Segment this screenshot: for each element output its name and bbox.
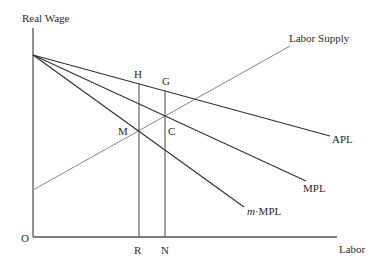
labor-supply-curve bbox=[33, 46, 290, 190]
mpl-label: MPL bbox=[303, 183, 326, 194]
point-h-label: H bbox=[134, 69, 142, 80]
point-c-label: C bbox=[168, 126, 175, 137]
m-mpl-label-suffix: ·MPL bbox=[255, 205, 281, 217]
apl-label: APL bbox=[332, 134, 353, 145]
labor-supply-label: Labor Supply bbox=[289, 33, 349, 44]
y-axis-label: Real Wage bbox=[22, 13, 69, 24]
point-r-label: R bbox=[134, 245, 141, 256]
m-mpl-label-prefix: m bbox=[247, 205, 255, 217]
point-m-label: M bbox=[118, 126, 128, 137]
point-n-label: N bbox=[161, 245, 169, 256]
labor-market-diagram: Real Wage Labor Supply H G M C APL MPL m… bbox=[0, 0, 378, 262]
point-g-label: G bbox=[162, 76, 170, 87]
x-axis-label: Labor bbox=[339, 244, 365, 255]
origin-label: O bbox=[21, 233, 29, 244]
m-mpl-label: m·MPL bbox=[247, 206, 281, 217]
